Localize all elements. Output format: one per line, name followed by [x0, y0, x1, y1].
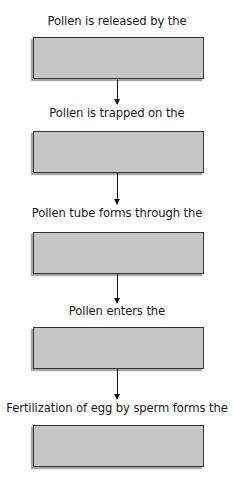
step-2-answer-box[interactable] — [33, 131, 204, 173]
step-5-answer-box[interactable] — [33, 425, 204, 467]
down-arrow-icon — [117, 79, 118, 104]
down-arrow-icon — [117, 173, 118, 204]
step-2-label: Pollen is trapped on the — [0, 106, 234, 120]
step-1-answer-box[interactable] — [33, 37, 204, 79]
step-3-answer-box[interactable] — [33, 232, 204, 274]
step-4-label: Pollen enters the — [0, 304, 234, 318]
step-4-answer-box[interactable] — [33, 327, 204, 369]
down-arrow-icon — [117, 369, 118, 399]
step-3-label: Pollen tube forms through the — [0, 206, 234, 220]
down-arrow-icon — [117, 274, 118, 303]
step-1-label: Pollen is released by the — [0, 14, 234, 28]
step-5-label: Fertilization of egg by sperm forms the — [0, 401, 234, 415]
